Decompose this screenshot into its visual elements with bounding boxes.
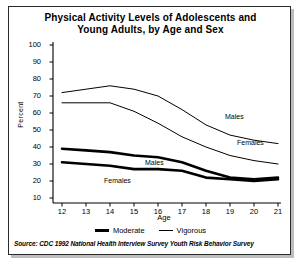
- series-line-vigorous-males: [62, 86, 278, 144]
- y-tick-label-20: 20: [19, 177, 41, 185]
- y-tick-label-10: 10: [19, 194, 41, 202]
- series-annotation-moderate-males: Males: [145, 159, 164, 166]
- legend-swatch-moderate-icon: [95, 229, 109, 232]
- y-tick-label-100: 100: [19, 41, 41, 49]
- legend-label-moderate: Moderate: [113, 226, 145, 235]
- chart-source-note: Source: CDC 1992 National Health Intervi…: [14, 240, 289, 247]
- series-annotation-moderate-females: Females: [104, 177, 131, 184]
- chart-figure-frame: Physical Activity Levels of Adolescents …: [8, 6, 291, 255]
- data-series-layer: [62, 86, 278, 181]
- legend-swatch-vigorous-icon: [159, 230, 173, 231]
- legend-item-vigorous: Vigorous: [159, 226, 206, 235]
- series-line-vigorous-females: [62, 103, 278, 164]
- plot-area: 100 90 80 70 60 50 40 30 20 10 Percent 1…: [9, 7, 292, 256]
- x-axis-label: Age: [49, 213, 279, 222]
- y-tick-label-90: 90: [19, 58, 41, 66]
- legend-label-vigorous: Vigorous: [177, 226, 206, 235]
- series-annotation-vigorous-females: Females: [237, 139, 264, 146]
- y-tick-label-40: 40: [19, 143, 41, 151]
- chart-legend: Moderate Vigorous: [9, 226, 292, 235]
- y-axis-label: Percent: [17, 93, 24, 137]
- y-tick-label-30: 30: [19, 160, 41, 168]
- series-annotation-vigorous-males: Males: [225, 113, 244, 120]
- legend-item-moderate: Moderate: [95, 226, 145, 235]
- y-tick-label-80: 80: [19, 75, 41, 83]
